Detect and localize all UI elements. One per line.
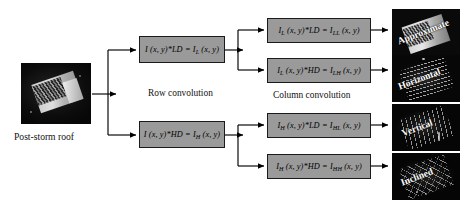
input-photo-caption: Post-storm roof <box>14 131 74 142</box>
stage1-label: Row convolution <box>148 88 213 98</box>
formula-box-row-high: I (x, y)*HD = IH (x, y) <box>139 121 225 148</box>
formula-row-low: I (x, y)*LD = IL (x, y) <box>145 45 219 55</box>
formula-row-high: I (x, y)*HD = IH (x, y) <box>144 130 220 140</box>
horizontal-subband-image: Horizontal <box>392 55 460 102</box>
arrow-il-to-split <box>225 30 264 70</box>
formula-box-col-hh: IH (x, y)*HD = IHH (x, y) <box>267 154 371 179</box>
arrow-split-stage1 <box>108 50 136 135</box>
formula-col-ll: IL (x, y)*LD = ILL (x, y) <box>278 26 359 36</box>
formula-col-hh: IH (x, y)*HD = IHH (x, y) <box>276 162 362 172</box>
post-storm-roof-photo <box>21 63 91 124</box>
arrow-ih-to-split <box>225 125 264 166</box>
formula-box-row-low: I (x, y)*LD = IL (x, y) <box>139 36 225 63</box>
approximate-subband-image: Approximate <box>392 9 460 56</box>
formula-box-col-ll: IL (x, y)*LD = ILL (x, y) <box>267 18 371 43</box>
formula-col-hl: IH (x, y)*LD = IHL (x, y) <box>277 121 360 131</box>
formula-box-col-lh: IL (x, y)*HD = ILH (x, y) <box>267 58 371 83</box>
formula-box-col-hl: IH (x, y)*LD = IHL (x, y) <box>267 113 371 138</box>
diagram-canvas: Post-storm roof I (x, y)*LD = IL (x, y) … <box>0 0 463 219</box>
stage2-label: Column convolution <box>273 90 350 100</box>
inclined-subband-image: Inclined <box>392 153 460 200</box>
vertical-subband-image: Vertical <box>392 104 460 151</box>
formula-col-lh: IL (x, y)*HD = ILH (x, y) <box>277 66 361 76</box>
